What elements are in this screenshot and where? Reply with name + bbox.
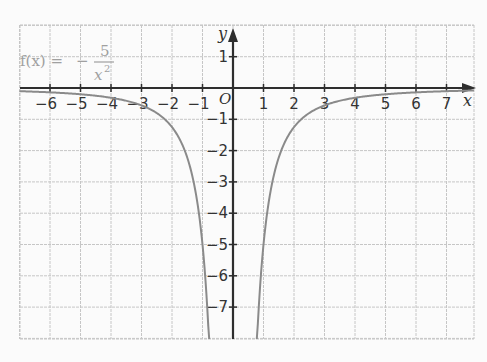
x-axis-label: x (463, 91, 472, 110)
x-tick-label: 1 (259, 95, 269, 113)
x-tick-label: 2 (289, 95, 299, 113)
y-tick-label: 1 (218, 48, 228, 66)
y-tick-label: −1 (206, 110, 228, 128)
function-graph: −6−5−4−3−2−112345671−1−2−3−4−5−6−7 x y O… (0, 0, 487, 362)
x-tick-label: 5 (381, 95, 391, 113)
function-label-minus: − (76, 52, 89, 70)
y-axis-arrow-icon (228, 28, 238, 42)
function-label-denominator: x (94, 66, 103, 84)
x-tick-label: −5 (65, 95, 87, 113)
y-tick-label: −5 (206, 236, 228, 254)
curve-branch-right (257, 91, 474, 339)
grid-lines (20, 25, 475, 339)
y-tick-label: −6 (206, 267, 228, 285)
function-label-exponent: 2 (104, 63, 110, 74)
axes (20, 28, 476, 339)
x-tick-label: −2 (157, 95, 179, 113)
y-tick-label: −7 (206, 298, 228, 316)
y-axis-label: y (217, 24, 228, 43)
x-tick-label: 6 (411, 95, 421, 113)
function-curve (20, 91, 474, 339)
y-tick-label: −4 (206, 204, 228, 222)
y-tick-label: −3 (206, 173, 228, 191)
x-tick-label: 7 (442, 95, 452, 113)
curve-branch-left (20, 91, 210, 339)
origin-label: O (219, 90, 231, 108)
y-tick-label: −2 (206, 142, 228, 160)
function-label-lhs: f(x) = (20, 52, 63, 70)
function-label-numerator: 5 (100, 42, 110, 60)
x-tick-label: −6 (35, 95, 57, 113)
function-label: f(x) = − 5 x 2 (20, 42, 114, 84)
